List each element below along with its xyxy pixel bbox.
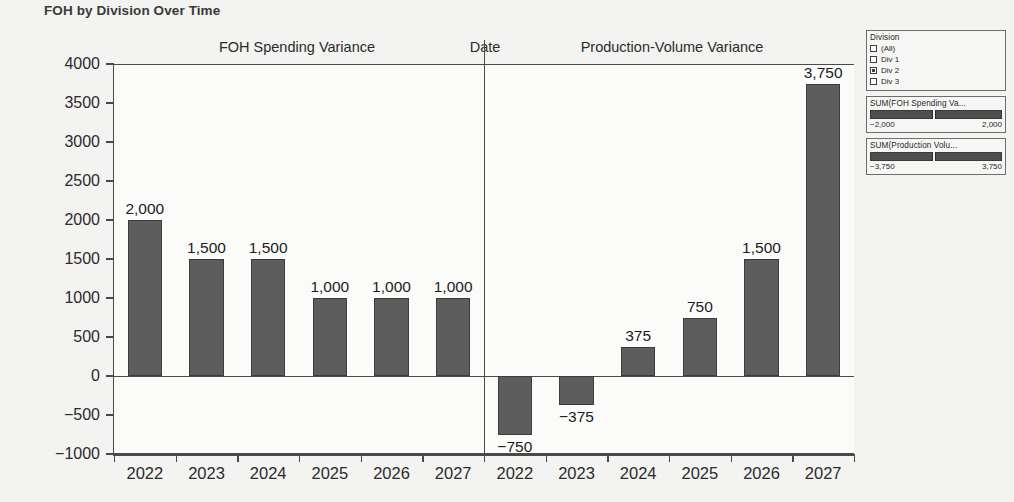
division-filter-item-label: (All): [881, 44, 895, 53]
x-axis-tick-mark: [484, 454, 485, 462]
y-axis-tick-mark: [106, 219, 114, 220]
division-filter-item-3[interactable]: Div 3: [870, 76, 1002, 87]
bar-value-label: −750: [469, 438, 561, 456]
range-slider-track[interactable]: [870, 110, 1002, 119]
y-axis: 40003500300025002000150010005000−500−100…: [0, 0, 100, 502]
checkbox-checked-icon[interactable]: [870, 67, 877, 74]
bar[interactable]: [744, 259, 779, 376]
bar[interactable]: [374, 298, 409, 376]
range-filter-title: SUM(Production Volu...: [870, 141, 1002, 150]
bar-value-label: 3,750: [777, 64, 869, 82]
y-axis-tick-label: 1000: [64, 289, 100, 307]
bar[interactable]: [683, 318, 718, 377]
x-axis-tick-label: 2024: [607, 464, 669, 483]
y-axis-tick-label: 4000: [64, 55, 100, 73]
x-axis-tick-label: 2025: [669, 464, 731, 483]
column-header-foh-spending-variance: FOH Spending Variance: [114, 39, 480, 55]
bar-value-label: −375: [531, 408, 623, 426]
y-axis-tick-mark: [106, 180, 114, 181]
x-axis-tick-label: 2026: [361, 464, 423, 483]
bar-value-label: 1,500: [716, 239, 808, 257]
checkbox-icon[interactable]: [870, 45, 877, 52]
range-slider-max-label: 2,000: [982, 120, 1002, 129]
y-axis-tick-label: 3500: [64, 94, 100, 112]
x-axis-tick-mark: [607, 454, 608, 462]
y-axis-tick-label: 3000: [64, 133, 100, 151]
division-filter-item-1[interactable]: Div 1: [870, 54, 1002, 65]
division-filter-item-2[interactable]: Div 2: [870, 65, 1002, 76]
range-slider-max-label: 3,750: [982, 162, 1002, 171]
x-axis-tick-label: 2027: [422, 464, 484, 483]
range-filter-title: SUM(FOH Spending Va...: [870, 99, 1002, 108]
checkbox-icon[interactable]: [870, 56, 877, 63]
y-axis-tick-label: −1000: [55, 445, 100, 463]
x-axis-tick-label: 2022: [484, 464, 546, 483]
bar[interactable]: [251, 259, 286, 376]
y-axis-tick-label: 1500: [64, 250, 100, 268]
x-axis-tick-label: 2023: [176, 464, 238, 483]
range-slider-min-label: −3,750: [870, 162, 895, 171]
bar[interactable]: [313, 298, 348, 376]
bar[interactable]: [559, 376, 594, 405]
range-filter-card-0: SUM(FOH Spending Va...−2,0002,000: [866, 96, 1006, 133]
division-filter-title: Division: [870, 33, 1002, 42]
y-axis-tick-mark: [106, 258, 114, 259]
y-axis-tick-label: 500: [73, 328, 100, 346]
bar-value-label: 2,000: [99, 200, 191, 218]
division-filter-item-0[interactable]: (All): [870, 43, 1002, 54]
y-axis-tick-mark: [106, 375, 114, 376]
x-axis-tick-mark: [361, 454, 362, 462]
range-filter-card-1: SUM(Production Volu...−3,7503,750: [866, 138, 1006, 175]
division-filter-item-label: Div 3: [881, 77, 899, 86]
bar-value-label: 750: [654, 298, 746, 316]
division-filter-card: Division (All)Div 1Div 2Div 3: [866, 30, 1006, 91]
range-slider-handle[interactable]: [932, 110, 936, 119]
column-header-production-volume-variance: Production-Volume Variance: [490, 39, 854, 55]
x-axis-tick-label: 2026: [731, 464, 793, 483]
tableau-viz-canvas: FOH by Division Over Time FOH Spending V…: [0, 0, 1014, 502]
range-slider-handle[interactable]: [932, 152, 936, 161]
bar[interactable]: [806, 84, 841, 377]
bar-value-label: 1,000: [407, 278, 499, 296]
range-slider-bounds: −2,0002,000: [870, 120, 1002, 129]
x-axis-tick-mark: [731, 454, 732, 462]
bar[interactable]: [189, 259, 224, 376]
range-slider-min-label: −2,000: [870, 120, 895, 129]
y-axis-tick-mark: [106, 297, 114, 298]
zero-baseline: [114, 376, 854, 377]
x-axis-tick-mark: [299, 454, 300, 462]
x-axis-tick-label: 2024: [237, 464, 299, 483]
bar[interactable]: [621, 347, 656, 376]
y-axis-tick-mark: [106, 102, 114, 103]
filter-panel: Division (All)Div 1Div 2Div 3 SUM(FOH Sp…: [866, 30, 1006, 180]
x-axis-tick-mark: [176, 454, 177, 462]
bar[interactable]: [436, 298, 471, 376]
y-axis-tick-mark: [106, 336, 114, 337]
x-axis-tick-label: 2025: [299, 464, 361, 483]
range-slider-track[interactable]: [870, 152, 1002, 161]
division-filter-item-label: Div 1: [881, 55, 899, 64]
x-axis-tick-label: 2022: [114, 464, 176, 483]
x-axis-tick-mark: [792, 454, 793, 462]
range-slider-bounds: −3,7503,750: [870, 162, 1002, 171]
checkbox-icon[interactable]: [870, 78, 877, 85]
x-axis-tick-mark: [854, 454, 855, 462]
slider-filter-cards: SUM(FOH Spending Va...−2,0002,000SUM(Pro…: [866, 96, 1006, 175]
y-axis-tick-label: 2500: [64, 172, 100, 190]
bar-value-label: 1,500: [222, 239, 314, 257]
bar[interactable]: [128, 220, 163, 376]
x-axis-tick-mark: [237, 454, 238, 462]
x-axis-tick-label: 2027: [792, 464, 854, 483]
x-axis-tick-mark: [669, 454, 670, 462]
y-axis-tick-mark: [106, 453, 114, 454]
bar[interactable]: [498, 376, 533, 435]
x-axis-tick-mark: [546, 454, 547, 462]
division-filter-item-label: Div 2: [881, 66, 899, 75]
y-axis-tick-mark: [106, 63, 114, 64]
x-axis-tick-mark: [114, 454, 115, 462]
panel-divider: [484, 40, 485, 454]
x-axis-tick-mark: [422, 454, 423, 462]
x-axis-tick-label: 2023: [546, 464, 608, 483]
y-axis-tick-label: 2000: [64, 211, 100, 229]
y-axis-tick-mark: [106, 414, 114, 415]
